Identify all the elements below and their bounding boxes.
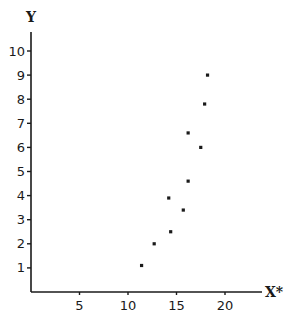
data-point [187,131,190,134]
y-tick-label: 2 [17,236,25,251]
x-tick-label: 5 [75,298,83,313]
x-tick-label: 15 [168,298,185,313]
data-point [187,180,190,183]
data-points [140,74,209,268]
y-tick-label: 3 [17,212,25,227]
data-point [203,102,206,105]
data-point [167,196,170,199]
scatter-chart: Y X* 12345678910 5101520 [0,0,292,324]
y-tick-label: 10 [8,44,25,59]
y-tick-label: 7 [17,116,25,131]
x-axis-label: X* [265,284,284,300]
y-tick-label: 8 [17,92,25,107]
y-tick-label: 9 [17,68,25,83]
y-tick-label: 1 [17,260,25,275]
data-point [206,74,209,77]
axes: Y X* [25,9,284,300]
x-tick-label: 10 [120,298,137,313]
data-point [169,230,172,233]
x-tick-label: 20 [217,298,234,313]
data-point [153,242,156,245]
y-axis-label: Y [25,9,37,25]
data-point [199,146,202,149]
data-point [182,208,185,211]
y-tick-label: 6 [17,140,25,155]
y-tick-label: 5 [17,164,25,179]
y-tick-label: 4 [17,188,25,203]
x-ticks: 5101520 [75,292,233,313]
y-ticks: 12345678910 [8,44,31,276]
data-point [140,264,143,267]
